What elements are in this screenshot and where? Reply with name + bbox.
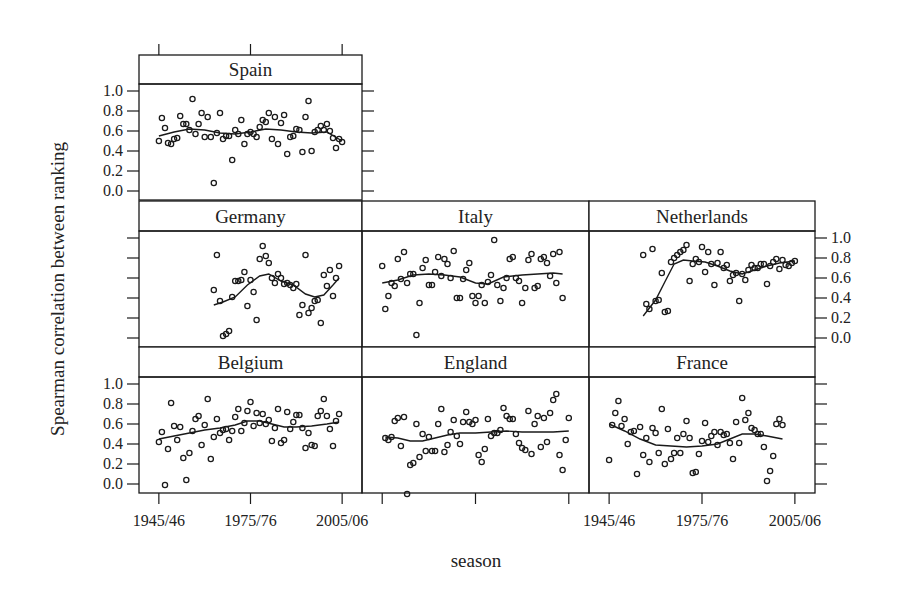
- data-point: [420, 431, 425, 436]
- data-point: [470, 293, 475, 298]
- data-point: [327, 267, 332, 272]
- loess-line: [385, 431, 569, 441]
- data-point: [532, 421, 537, 426]
- data-point: [178, 424, 183, 429]
- data-point: [777, 416, 782, 421]
- data-point: [269, 136, 274, 141]
- data-point: [551, 251, 556, 256]
- data-point: [405, 491, 410, 496]
- data-point: [516, 278, 521, 283]
- plot-frame: [589, 377, 815, 493]
- data-points: [156, 396, 341, 487]
- data-point: [306, 430, 311, 435]
- data-point: [184, 477, 189, 482]
- data-point: [656, 450, 661, 455]
- data-point: [678, 450, 683, 455]
- data-point: [730, 456, 735, 461]
- data-point: [337, 263, 342, 268]
- data-point: [638, 424, 643, 429]
- data-point: [662, 461, 667, 466]
- data-point: [724, 262, 729, 267]
- data-point: [263, 253, 268, 258]
- data-point: [476, 452, 481, 457]
- loess-line: [159, 421, 339, 439]
- data-point: [159, 115, 164, 120]
- data-point: [672, 450, 677, 455]
- data-point: [495, 282, 500, 287]
- data-point: [634, 471, 639, 476]
- y-tick-label: 0.0: [103, 182, 123, 199]
- data-point: [278, 440, 283, 445]
- data-point: [260, 411, 265, 416]
- data-point: [498, 298, 503, 303]
- panel-germany: Germany: [139, 201, 362, 347]
- data-point: [647, 459, 652, 464]
- data-point: [544, 260, 549, 265]
- data-point: [727, 440, 732, 445]
- data-point: [665, 426, 670, 431]
- data-point: [199, 442, 204, 447]
- data-point: [392, 283, 397, 288]
- data-point: [245, 303, 250, 308]
- data-point: [541, 415, 546, 420]
- data-point: [445, 261, 450, 266]
- data-points: [380, 237, 566, 337]
- data-point: [675, 252, 680, 257]
- plot-frame: [589, 231, 815, 347]
- data-point: [423, 448, 428, 453]
- data-point: [473, 300, 478, 305]
- data-point: [644, 301, 649, 306]
- data-point: [199, 110, 204, 115]
- data-point: [272, 114, 277, 119]
- data-point: [383, 306, 388, 311]
- data-points: [211, 243, 342, 338]
- data-point: [777, 266, 782, 271]
- data-point: [764, 281, 769, 286]
- y-tick-label: 0.0: [831, 329, 851, 346]
- data-point: [616, 398, 621, 403]
- data-point: [187, 450, 192, 455]
- data-point: [165, 446, 170, 451]
- data-point: [230, 157, 235, 162]
- data-point: [208, 134, 213, 139]
- data-point: [205, 114, 210, 119]
- data-point: [659, 406, 664, 411]
- data-point: [560, 467, 565, 472]
- data-point: [699, 438, 704, 443]
- y-tick-label: 0.8: [831, 249, 851, 266]
- data-point: [321, 272, 326, 277]
- data-point: [423, 257, 428, 262]
- y-tick-label: 0.0: [103, 475, 123, 492]
- data-point: [236, 406, 241, 411]
- data-point: [764, 478, 769, 483]
- data-point: [315, 413, 320, 418]
- data-point: [211, 434, 216, 439]
- panel-italy: Italy: [362, 201, 589, 347]
- x-tick-label: 1975/76: [224, 512, 276, 529]
- data-point: [417, 300, 422, 305]
- data-point: [485, 416, 490, 421]
- data-point: [324, 413, 329, 418]
- data-point: [196, 413, 201, 418]
- data-point: [554, 391, 559, 396]
- data-point: [684, 242, 689, 247]
- data-point: [650, 425, 655, 430]
- data-point: [266, 110, 271, 115]
- data-point: [492, 237, 497, 242]
- data-points: [641, 242, 798, 314]
- data-point: [278, 120, 283, 125]
- data-point: [439, 406, 444, 411]
- data-point: [501, 405, 506, 410]
- data-point: [178, 113, 183, 118]
- data-point: [159, 429, 164, 434]
- data-point: [625, 441, 630, 446]
- data-point: [300, 302, 305, 307]
- data-point: [613, 410, 618, 415]
- data-point: [467, 260, 472, 265]
- data-point: [324, 283, 329, 288]
- x-tick-label: 2005/06: [769, 512, 821, 529]
- data-point: [445, 442, 450, 447]
- panel-spain: Spain: [139, 55, 362, 200]
- data-point: [309, 148, 314, 153]
- data-point: [266, 260, 271, 265]
